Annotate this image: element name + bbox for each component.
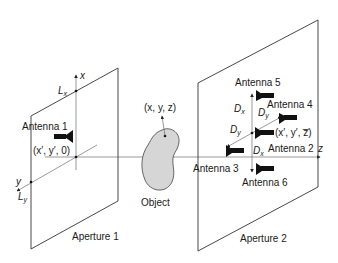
antenna-4-label: Antenna 4 — [267, 99, 313, 110]
object-point-label: (x, y, z) — [144, 102, 176, 113]
antenna-aperture-diagram: x Lx Antenna 1 (x′, y′, 0) y Ly Aperture… — [0, 0, 338, 263]
antenna-1-position-label: (x′, y′, 0) — [33, 145, 70, 156]
ly-point — [30, 181, 33, 184]
dx-label-upper: Dx — [234, 103, 245, 115]
x-axis-label: x — [79, 70, 86, 81]
antenna-3-label: Antenna 3 — [193, 163, 239, 174]
z-axis-label: z — [317, 143, 323, 154]
antenna-5-label: Antenna 5 — [235, 77, 281, 88]
ly-label: Ly — [18, 191, 28, 204]
antenna-1-label: Antenna 1 — [22, 121, 68, 132]
antenna-2-position-label: (x′, y′, z̅) — [275, 127, 312, 138]
antenna-4-icon — [279, 113, 297, 124]
dx-label-lower: Dx — [253, 145, 264, 157]
origin-point — [75, 156, 78, 159]
object-label: Object — [141, 197, 170, 208]
antenna-3-icon — [226, 145, 244, 157]
lx-label: Lx — [58, 85, 68, 97]
antenna-2-icon — [255, 127, 274, 139]
antenna-6-label: Antenna 6 — [242, 177, 288, 188]
y-axis-label: y — [15, 176, 22, 187]
aperture-2-label: Aperture 2 — [240, 233, 287, 244]
antenna-6-icon — [256, 163, 274, 175]
aperture-1-label: Aperture 1 — [72, 231, 119, 242]
aperture-2-center-point — [251, 132, 254, 135]
antenna-2-label: Antenna 2 — [268, 143, 314, 154]
aperture-1-plane — [31, 68, 118, 249]
object-shape — [142, 129, 179, 190]
dy-label-lower: Dy — [230, 124, 241, 137]
lx-point — [75, 90, 78, 93]
